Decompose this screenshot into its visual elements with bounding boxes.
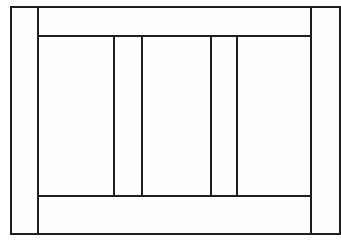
- pane-left: [37, 35, 115, 197]
- mullion-right: [210, 35, 238, 197]
- bottom-rail: [37, 195, 312, 235]
- frame-diagram: [0, 0, 341, 240]
- left-stile: [10, 6, 39, 235]
- mullion-left: [113, 35, 143, 197]
- top-rail: [37, 6, 312, 37]
- right-stile: [310, 6, 341, 235]
- pane-center: [141, 35, 212, 197]
- pane-right: [236, 35, 312, 197]
